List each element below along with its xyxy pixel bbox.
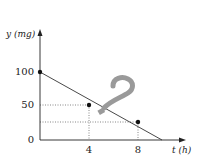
point-4-50 — [87, 103, 91, 107]
question-mark-icon — [97, 78, 132, 115]
y-tick-100: 100 — [15, 66, 34, 77]
y-axis-arrow-icon — [38, 29, 43, 36]
y-tick-50: 50 — [21, 99, 34, 110]
point-8-25 — [136, 120, 140, 124]
x-tick-8: 8 — [135, 144, 141, 155]
decay-diagram: y (mg) 100 50 0 4 8 t (h) — [0, 0, 205, 157]
x-axis-label: t (h) — [172, 145, 192, 155]
point-0-100 — [38, 70, 42, 74]
x-tick-4: 4 — [86, 144, 92, 155]
x-axis-arrow-icon — [179, 138, 186, 143]
y-axis-label: y (mg) — [5, 29, 36, 39]
decay-line — [40, 72, 162, 140]
guide-lines — [40, 105, 138, 140]
y-tick-0: 0 — [28, 134, 34, 145]
